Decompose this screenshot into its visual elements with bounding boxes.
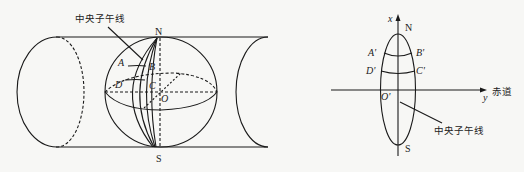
cylinder-left-end-back	[57, 37, 84, 147]
meridian-leader-line	[108, 27, 143, 60]
diagram-canvas: 中央子午线 N S A B D C O x N S A' B' D' C' O'…	[0, 0, 524, 172]
x-axis-label: x	[387, 13, 393, 24]
equator-label: 赤道	[492, 86, 512, 97]
north-label-left: N	[155, 26, 162, 37]
south-label-right: S	[405, 143, 411, 154]
left-figure-cylinder-sphere	[17, 27, 268, 148]
point-B-label: B	[149, 61, 155, 72]
arc-DC	[125, 80, 145, 81]
point-C-prime-label: C'	[416, 65, 426, 76]
point-C-label: C	[149, 80, 156, 91]
cylinder-left-end-front	[17, 37, 57, 147]
origin-O-prime-label: O'	[381, 91, 391, 102]
north-label-right: N	[405, 22, 412, 33]
left-figure-labels: 中央子午线 N S A B D C O	[75, 13, 168, 164]
point-D-prime-label: D'	[365, 65, 376, 76]
cylinder-right-end	[236, 37, 268, 147]
central-meridian-label-left: 中央子午线	[75, 13, 125, 24]
point-A-label: A	[117, 57, 125, 68]
x-axis-arrow	[396, 14, 401, 21]
y-axis-label: y	[482, 92, 488, 103]
central-meridian-label-right: 中央子午线	[434, 125, 484, 136]
point-B-prime-label: B'	[416, 47, 425, 58]
arc-AB	[128, 66, 146, 67]
point-A-prime-label: A'	[367, 47, 377, 58]
point-O-label: O	[161, 93, 168, 104]
point-D-label: D	[114, 79, 123, 90]
south-label-left: S	[156, 153, 162, 164]
meridian-leader-line-right	[400, 102, 442, 123]
